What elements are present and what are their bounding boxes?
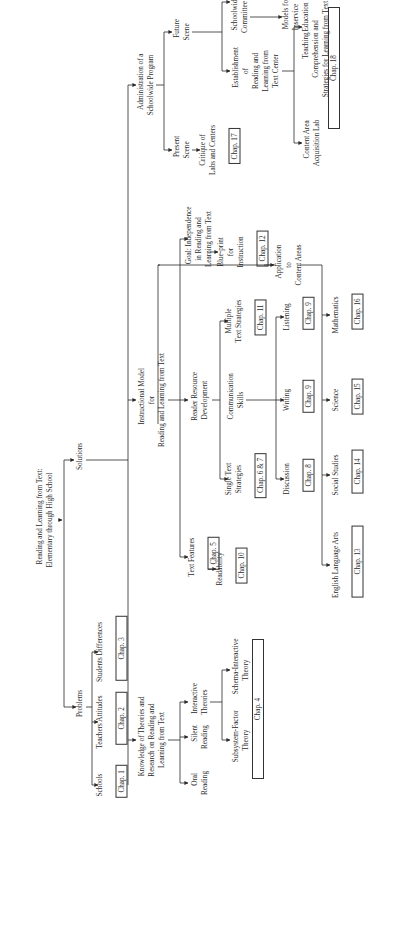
blueprint-label: Blue-print for Instruction [216, 230, 246, 273]
knowledge-label: Knowledge of Theories and Research on Re… [138, 696, 166, 776]
readability-node: Readability Chap. 10 [195, 547, 258, 590]
subsystem-factor-label: Subsystem-Factor Theory [232, 710, 250, 762]
mathematics-node: Mathematics Chap. 16 [311, 293, 374, 336]
social-studies-label: Social Studies [331, 449, 341, 500]
solutions-node: Solutions [65, 443, 95, 477]
communication-skills-node: Communication Skills [216, 373, 256, 427]
english-language-arts-label: English Language Arts [331, 525, 341, 604]
schoolwide-committee-node: Schoolwide Committee [220, 0, 260, 38]
chapter-18-box: Chap. 18 [328, 7, 340, 129]
future-scene-node: Future Scene [162, 19, 202, 45]
interactive-theories-node: Interactive Theories [180, 683, 220, 721]
administration-label: Administration of a Schoolwide Program [137, 53, 155, 115]
interactive-theories-label: Interactive Theories [191, 683, 209, 715]
science-node: Science Chap. 15 [311, 378, 374, 421]
reader-resource-label: Reader Resource Development [191, 372, 209, 421]
content-area-lab-node: Content Area Acquisition Lab [292, 120, 332, 167]
communication-skills-label: Communication Skills [227, 373, 245, 419]
knowledge-node: Knowledge of Theories and Research on Re… [127, 696, 177, 783]
oral-reading-label: Oral Reading [191, 771, 209, 795]
schoolwide-committee-label: Schoolwide Committee [231, 0, 249, 33]
rotated-diagram-page: Reading and Learning from Text: Elementa… [0, 0, 402, 929]
instructional-model-label: Instructional Model for Reading and Lear… [138, 353, 166, 447]
chapter-3-box: Chap. 3 [116, 616, 128, 680]
multiple-text-label: Multiple Text Strategies [224, 300, 244, 343]
english-language-arts-node: English Language Arts Chap. 13 [311, 525, 374, 604]
single-text-label: Single Text Strategies [224, 453, 244, 505]
critique-label: Critique of Labs and Centers [198, 125, 218, 175]
silent-reading-label: Silent Reading [191, 725, 209, 749]
chapter-1-box: Chap. 1 [116, 765, 128, 797]
discussion-label: Discussion [282, 459, 292, 499]
chapter-10-box: Chap. 10 [236, 547, 248, 583]
root-label: Reading and Learning from Text: Elementa… [36, 468, 54, 567]
root-node: Reading and Learning from Text: Elementa… [25, 468, 65, 571]
chapter-2-box: Chap. 2 [116, 692, 128, 744]
oral-reading-node: Oral Reading [180, 771, 220, 795]
chapter-17-box: Chap. 17 [229, 128, 241, 164]
schools-label: Schools [95, 765, 105, 805]
chapter-16-box: Chap. 16 [352, 293, 364, 329]
listening-label: Listening [282, 297, 292, 337]
application-label: Application to Content Areas [275, 245, 303, 286]
chapter-15-box: Chap. 15 [352, 378, 364, 414]
establishment-node: Establishment of Reading and Learning fr… [221, 47, 291, 95]
solutions-label: Solutions [76, 443, 84, 470]
administration-node: Administration of a Schoolwide Program [126, 53, 166, 116]
instructional-model-node: Instructional Model for Reading and Lear… [127, 353, 177, 447]
chapter-4-box: Chap. 4 [252, 639, 264, 779]
content-area-lab-label: Content Area Acquisition Lab [303, 120, 321, 167]
application-node: Application to Content Areas [264, 245, 314, 286]
chapter-18-label: Chap. 18 [330, 55, 338, 81]
writing-label: Writing [282, 380, 292, 420]
teachers-attitudes-label: Teachers Attitudes [95, 692, 105, 752]
mathematics-label: Mathematics [331, 293, 341, 336]
science-label: Science [331, 378, 341, 421]
critique-node: Critique of Labs and Centers Chap. 17 [178, 125, 251, 175]
chapter-13-box: Chap. 13 [352, 525, 364, 597]
students-differences-node: Students Differences Chap. 3 [75, 616, 138, 688]
chapter-14-box: Chap. 14 [352, 449, 364, 493]
establishment-label: Establishment of Reading and Learning fr… [232, 47, 280, 92]
students-differences-label: Students Differences [95, 616, 105, 688]
social-studies-node: Social Studies Chap. 14 [311, 449, 374, 500]
chapter-4-label: Chap. 4 [254, 698, 262, 720]
silent-reading-node: Silent Reading [180, 725, 220, 749]
future-scene-label: Future Scene [173, 19, 191, 41]
schema-interactive-label: Schema-Interactive Theory [232, 638, 250, 694]
readability-label: Readability [215, 547, 225, 590]
reader-resource-node: Reader Resource Development [180, 372, 220, 428]
teaching-comprehension-label: Teaching Comprehension and Strategies fo… [302, 1, 330, 97]
